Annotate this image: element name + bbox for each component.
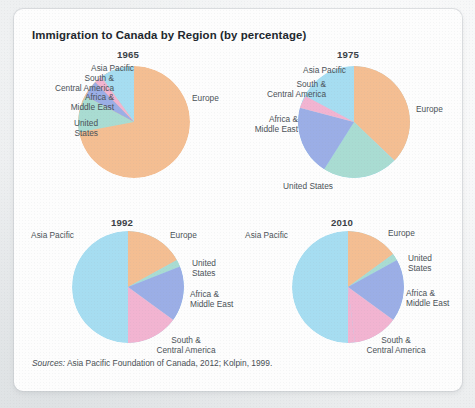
pie-slices-1992	[72, 231, 184, 343]
pie-label-1975-europe: Europe	[416, 105, 475, 115]
pie-label-1965-united-states: United States	[20, 119, 98, 138]
pie-panel-1975: 1975 Asia Pacific	[240, 49, 456, 219]
pie-label-2010-united-states: United States	[408, 254, 452, 273]
panel-year-1992: 1992	[14, 217, 230, 228]
pie-label-1992-south-central-america: South & Central America	[130, 336, 242, 355]
pie-label-1975-asia-pacific: Asia Pacific	[242, 66, 346, 76]
panel-year-1965: 1965	[20, 49, 236, 60]
pie-label-1965-south-central-america: South & Central America	[8, 74, 114, 93]
sources-label: Sources:	[32, 358, 65, 368]
pie-slices-2010	[292, 231, 404, 343]
figure-page: Immigration to Canada by Region (by perc…	[0, 0, 475, 408]
sources-note: Sources: Asia Pacific Foundation of Cana…	[32, 358, 272, 368]
page-title: Immigration to Canada by Region (by perc…	[32, 29, 306, 41]
pie-panel-1965: 1965 Asia Pacific	[20, 49, 236, 219]
pie-label-2010-africa-middle-east: Africa & Middle East	[406, 289, 475, 308]
panel-year-2010: 2010	[234, 217, 450, 228]
pie-label-2010-south-central-america: South & Central America	[340, 336, 452, 355]
panel-year-1975: 1975	[240, 49, 456, 60]
pie-label-1975-united-states: United States	[248, 182, 368, 192]
pie-label-1992-united-states: United States	[192, 259, 236, 278]
pie-label-2010-europe: Europe	[388, 229, 448, 239]
pie-label-1965-asia-pacific: Asia Pacific	[22, 64, 134, 74]
pie-label-2010-asia-pacific: Asia Pacific	[230, 231, 288, 241]
sources-text: Asia Pacific Foundation of Canada, 2012;…	[65, 358, 272, 368]
pie-panel-2010: 2010	[240, 217, 456, 367]
pie-label-1992-asia-pacific: Asia Pacific	[16, 231, 74, 241]
pie-chart-2010	[292, 231, 404, 343]
pie-label-1992-europe: Europe	[170, 231, 230, 241]
pie-label-1975-south-central-america: South & Central America	[228, 80, 326, 99]
pie-chart-1992	[72, 231, 184, 343]
pie-panel-1992: 1992 Asia Pacific	[20, 217, 236, 367]
pie-label-1965-africa-middle-east: Africa & Middle East	[16, 93, 114, 112]
figure-card: Immigration to Canada by Region (by perc…	[14, 9, 462, 391]
pie-label-1975-africa-middle-east: Africa & Middle East	[228, 115, 298, 134]
